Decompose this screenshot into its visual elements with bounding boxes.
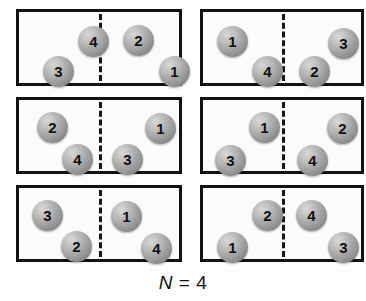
container-box: 3214	[16, 185, 182, 262]
particle-ball: 2	[252, 200, 283, 231]
particle-label: 3	[43, 208, 51, 223]
box-grid: 432114322413132432142143	[0, 0, 366, 270]
particle-label: 3	[339, 36, 347, 51]
particle-ball: 1	[217, 26, 248, 57]
particle-ball: 1	[249, 112, 280, 143]
particle-ball: 3	[112, 144, 143, 175]
figure-caption: N = 4	[0, 272, 366, 294]
particle-label: 2	[310, 64, 318, 79]
particle-label: 3	[54, 64, 62, 79]
particle-label: 4	[152, 241, 160, 256]
particle-label: 2	[72, 239, 80, 254]
particle-ball: 1	[217, 232, 248, 263]
particle-label: 1	[156, 121, 164, 136]
particle-label: 3	[226, 153, 234, 168]
container-box: 2413	[16, 97, 182, 174]
dashed-divider	[99, 102, 102, 169]
particle-ball: 4	[252, 56, 283, 87]
particle-ball: 1	[111, 201, 142, 232]
particle-ball: 4	[62, 144, 93, 175]
particle-ball: 2	[327, 113, 358, 144]
caption-value: 4	[196, 272, 207, 293]
particle-ball: 3	[32, 200, 63, 231]
particle-label: 1	[228, 240, 236, 255]
particle-label: 4	[263, 64, 271, 79]
particle-label: 1	[228, 34, 236, 49]
particle-label: 3	[339, 240, 347, 255]
container-box: 1432	[200, 9, 364, 86]
particle-ball: 4	[297, 145, 328, 176]
particle-ball: 1	[159, 56, 190, 87]
particle-ball: 2	[37, 112, 68, 143]
particle-ball: 3	[215, 145, 246, 176]
particle-ball: 2	[299, 56, 330, 87]
dashed-divider	[282, 190, 285, 257]
particle-ball: 3	[328, 28, 359, 59]
dashed-divider	[99, 190, 102, 257]
particle-label: 2	[263, 208, 271, 223]
particle-ball: 4	[141, 233, 172, 264]
particle-ball: 2	[123, 25, 154, 56]
particle-label: 1	[122, 209, 130, 224]
dashed-divider	[282, 102, 285, 169]
particle-ball: 3	[328, 232, 359, 263]
caption-symbol: N	[159, 272, 173, 293]
container-box: 4321	[16, 9, 182, 86]
particle-ball: 4	[296, 200, 327, 231]
particle-ball: 3	[43, 56, 74, 87]
particle-ball: 1	[145, 113, 176, 144]
caption-relation: =	[173, 272, 196, 293]
particle-label: 4	[73, 152, 81, 167]
particle-label: 4	[307, 208, 315, 223]
microstate-partition-figure: 432114322413132432142143 N = 4	[0, 0, 366, 301]
particle-label: 3	[123, 152, 131, 167]
particle-label: 1	[170, 64, 178, 79]
particle-ball: 4	[78, 26, 109, 57]
particle-label: 4	[89, 34, 97, 49]
particle-label: 2	[48, 120, 56, 135]
particle-ball: 2	[61, 231, 92, 262]
particle-label: 2	[134, 33, 142, 48]
particle-label: 4	[308, 153, 316, 168]
container-box: 1324	[200, 97, 364, 174]
container-box: 2143	[200, 185, 364, 262]
particle-label: 1	[260, 120, 268, 135]
particle-label: 2	[338, 121, 346, 136]
